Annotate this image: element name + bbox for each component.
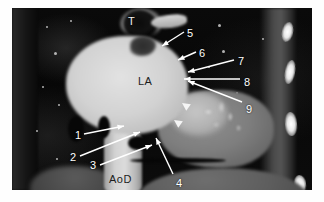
calcification-speck [46,26,48,28]
tomographic-image: 123456789 TLAAoD [12,8,312,190]
calcification-speck [36,130,38,132]
trachea-lumen [124,10,154,34]
calcification-speck [54,52,57,55]
calcification-speck [58,104,60,106]
calcification-speck [222,50,225,53]
calcification-speck [70,20,72,22]
figure-canvas: 123456789 TLAAoD [0,0,324,202]
calcification-speck [42,86,44,88]
calcification-speck [56,158,58,160]
pericardial-line-left [68,116,84,142]
vessel-gap-left [98,116,110,138]
calcification-speck [208,66,210,68]
calcification-speck [218,24,221,27]
vessel-gap-lower [128,136,148,150]
calcification-speck [262,38,264,40]
left-atrium [66,36,188,134]
trabeculae-flecks [198,100,250,140]
pericardial-line-lower [130,158,226,163]
left-chest-wall [12,8,38,190]
